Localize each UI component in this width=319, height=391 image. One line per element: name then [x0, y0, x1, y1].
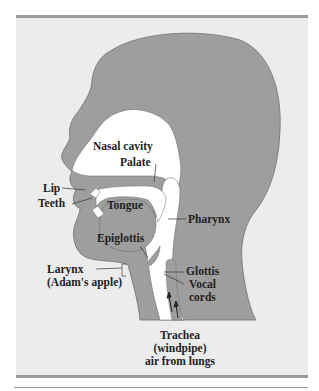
label-cords: cords: [189, 291, 216, 303]
label-vocal: Vocal: [189, 278, 216, 290]
label-larynx: Larynx: [47, 263, 83, 275]
label-palate: Palate: [120, 156, 151, 168]
label-glottis: Glottis: [186, 265, 219, 277]
label-epiglottis: Epiglottis: [97, 232, 144, 244]
label-nasal-cavity: Nasal cavity: [93, 140, 153, 152]
label-trachea: Trachea: [140, 329, 220, 341]
larynx-bracket: [122, 264, 126, 276]
label-lip: Lip: [43, 182, 60, 194]
larynx-leader: [96, 268, 122, 269]
label-pharynx: Pharynx: [188, 213, 230, 225]
label-tongue: Tongue: [107, 199, 143, 211]
vocal-tract-figure: Nasal cavity Palate Lip Teeth Tongue Pha…: [0, 0, 319, 391]
label-adams-apple: (Adam's apple): [47, 276, 122, 288]
label-teeth: Teeth: [38, 197, 65, 209]
label-windpipe: (windpipe): [140, 342, 220, 354]
label-air-from-lungs: air from lungs: [130, 355, 230, 367]
